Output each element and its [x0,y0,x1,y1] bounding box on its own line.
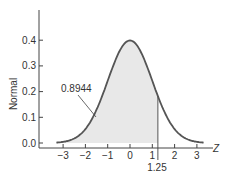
y-ticks: 0.00.10.20.30.4 [22,35,43,149]
x-ticks: −3−2−10123 [57,144,200,161]
annotation-pointer [78,95,96,117]
y-tick-label: 0.3 [22,60,36,71]
x-tick-label: −3 [57,150,69,161]
x-tick-label: −2 [80,150,92,161]
cutoff-label: 1.25 [147,162,167,173]
x-tick-label: 2 [172,150,178,161]
y-tick-label: 0.1 [22,112,36,123]
x-tick-label: 3 [194,150,200,161]
normal-distribution-chart: 0.00.10.20.30.4 −3−2−10123 Normal Z 0.89… [0,0,229,173]
y-tick-label: 0.2 [22,86,36,97]
y-tick-label: 0.4 [22,35,36,46]
area-annotation: 0.8944 [61,83,92,94]
x-tick-label: −1 [102,150,114,161]
x-axis-label: Z [212,143,220,154]
x-tick-label: 0 [127,150,133,161]
x-tick-label: 1 [150,150,156,161]
y-axis-label: Normal [8,78,19,110]
y-tick-label: 0.0 [22,138,36,149]
